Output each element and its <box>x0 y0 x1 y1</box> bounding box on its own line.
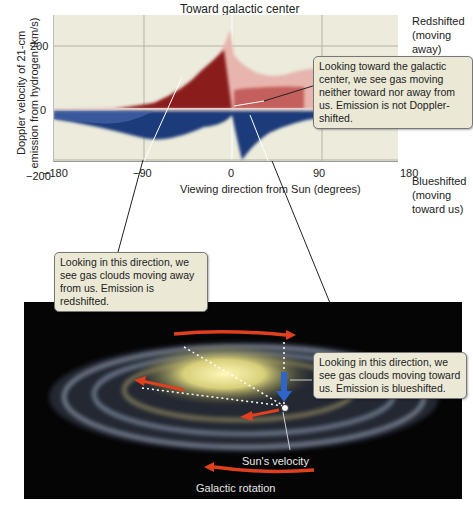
sun-velocity-label: Sun's velocity <box>242 455 309 467</box>
callout-galactic-center: Looking toward the galactic center, we s… <box>313 56 473 129</box>
callout-redshifted: Looking in this direction, we see gas cl… <box>54 252 208 312</box>
callout-blueshifted: Looking in this direction, we see gas cl… <box>313 352 467 399</box>
galactic-rotation-label: Galactic rotation <box>196 482 275 494</box>
galaxy-illustration: Sun's velocity Galactic rotation <box>24 302 462 499</box>
milky-way-galaxy <box>24 302 462 499</box>
